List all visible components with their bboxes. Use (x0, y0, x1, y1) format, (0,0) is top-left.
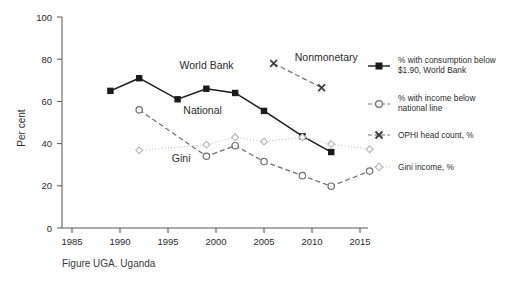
data-point-square (232, 90, 238, 96)
legend-label-national-line2: national line (398, 103, 443, 113)
series-annotation-world-bank: World Bank (180, 59, 235, 71)
data-point-square (261, 108, 267, 114)
data-point-square (136, 75, 142, 81)
x-tick-label-1990: 1990 (109, 236, 130, 247)
data-point-circle (261, 158, 267, 164)
figure-container: 100 80 60 40 20 0 Per cent 1985 1990 199… (0, 0, 525, 282)
x-axis (62, 228, 368, 233)
y-axis-title: Per cent (16, 109, 27, 146)
legend-item-gini[interactable]: Gini income, % (368, 162, 454, 172)
legend-label-gini: Gini income, % (398, 162, 454, 172)
data-point-diamond (232, 134, 239, 141)
data-point-cross (318, 84, 325, 91)
data-point-square (203, 86, 209, 92)
y-tick-label-20: 20 (41, 180, 52, 191)
chart-canvas: 100 80 60 40 20 0 Per cent 1985 1990 199… (0, 0, 525, 282)
series-annotation-national: National (183, 104, 222, 116)
data-point-diamond (136, 147, 143, 154)
legend-item-ophi[interactable]: OPHI head count, % (368, 130, 474, 140)
y-axis (57, 17, 62, 228)
x-tick-label-2000: 2000 (205, 236, 226, 247)
legend-label-world-bank-line1: % with consumption below (398, 55, 497, 65)
y-tick-label-80: 80 (41, 54, 52, 65)
data-point-diamond (261, 138, 268, 145)
data-point-diamond (328, 141, 335, 148)
legend: % with consumption below $1.90, World Ba… (368, 55, 497, 172)
open-diamond-icon (375, 163, 382, 171)
open-circle-icon (376, 101, 383, 108)
x-tick-label-1985: 1985 (61, 236, 82, 247)
legend-label-world-bank-line2: $1.90, World Bank (398, 65, 467, 75)
data-point-circle (366, 168, 372, 174)
series-annotation-gini: Gini (172, 152, 191, 164)
y-tick-label-40: 40 (41, 138, 52, 149)
x-tick-label-2015: 2015 (349, 236, 370, 247)
y-tick-label-60: 60 (41, 96, 52, 107)
data-point-circle (328, 183, 334, 189)
data-point-circle (136, 107, 142, 113)
filled-square-icon (376, 63, 383, 70)
data-point-circle (203, 153, 209, 159)
legend-item-national[interactable]: % with income below national line (368, 93, 476, 113)
x-tick-label-2005: 2005 (253, 236, 274, 247)
data-point-diamond (366, 146, 373, 153)
y-tick-label-100: 100 (36, 12, 52, 23)
series-layer (107, 60, 373, 189)
data-point-diamond (203, 141, 210, 148)
data-point-cross (270, 60, 277, 67)
y-tick-label-0: 0 (47, 223, 52, 234)
legend-label-ophi: OPHI head count, % (398, 130, 474, 140)
x-tick-label-2010: 2010 (301, 236, 322, 247)
legend-label-national-line1: % with income below (398, 93, 476, 103)
data-point-circle (299, 172, 305, 178)
x-tick-label-1995: 1995 (157, 236, 178, 247)
series-annotation-nonmonetary: Nonmonetary (295, 51, 359, 63)
figure-caption: Figure UGA. Uganda (62, 258, 156, 269)
data-point-square (328, 149, 334, 155)
data-point-square (107, 88, 113, 94)
data-point-circle (232, 143, 238, 149)
legend-item-world-bank[interactable]: % with consumption below $1.90, World Ba… (368, 55, 497, 75)
data-point-square (174, 96, 180, 102)
series-nonmonetary (270, 60, 325, 91)
